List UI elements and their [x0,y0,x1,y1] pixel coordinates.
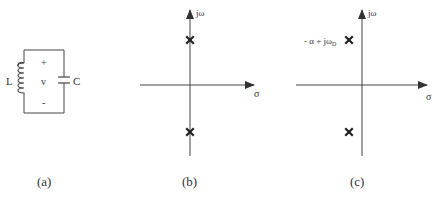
panel-a-circuit: L C + v - [6,50,80,113]
capacitor-icon [58,77,70,83]
inductor-icon [18,62,24,95]
imaginary-axis-label: jω [367,8,377,18]
pole-marker-icon [346,129,352,135]
panel-b-pole-plot: jω σ [140,8,260,156]
plus-sign: + [41,57,47,68]
inductor-label: L [6,75,13,87]
pole-annotation-subscript: D [332,41,337,47]
caption-a: (a) [37,174,51,189]
pole-annotation-text: - α + jω [304,36,332,46]
figure-canvas: L C + v - jω σ jω σ - α + jωD (a) [0,0,440,198]
real-axis-label: σ [254,88,260,99]
real-axis-label: σ [426,91,432,102]
pole-annotation: - α + jωD [304,36,337,47]
caption-b: (b) [182,174,197,189]
minus-sign: - [42,97,45,108]
capacitor-label: C [73,75,80,87]
panel-c-pole-plot: jω σ - α + jωD [296,8,432,156]
imaginary-axis-label: jω [195,8,205,18]
pole-marker-icon [346,37,352,43]
voltage-label: v [41,76,46,87]
caption-c: (c) [350,174,364,189]
